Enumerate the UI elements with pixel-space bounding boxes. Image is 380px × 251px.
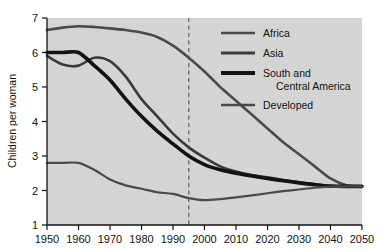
y-axis-title: Children per woman [6,74,18,168]
chart-root: 1234567 19501960197019801990200020102020… [0,0,380,251]
legend-label-south-and: South and [263,67,311,79]
legend-label-central-america: Central America [276,80,351,92]
y-tick-label-7: 7 [32,12,38,24]
x-tick-label-2050: 2050 [350,233,374,245]
legend-label-developed: Developed [263,99,313,111]
y-tick-labels-group: 1234567 [32,12,38,231]
fertility-line-chart: 1234567 19501960197019801990200020102020… [0,0,380,251]
legend-label-africa: Africa [263,27,290,39]
x-tick-label-2010: 2010 [224,233,248,245]
x-tick-label-2020: 2020 [255,233,279,245]
y-tick-label-2: 2 [32,185,38,197]
x-tick-label-2040: 2040 [318,233,342,245]
y-tick-label-1: 1 [32,219,38,231]
y-tick-label-5: 5 [32,81,38,93]
x-tick-label-1960: 1960 [66,233,90,245]
x-tick-labels-group: 1950196019701980199020002010202020302040… [35,233,374,245]
y-tick-label-6: 6 [32,47,38,59]
y-tick-label-3: 3 [32,150,38,162]
x-tick-label-1950: 1950 [35,233,59,245]
x-tick-label-1980: 1980 [129,233,153,245]
plot-background-group [47,18,362,225]
x-tick-label-2000: 2000 [192,233,216,245]
plot-background [47,18,362,225]
x-tick-label-2030: 2030 [287,233,311,245]
x-tick-label-1990: 1990 [161,233,185,245]
legend-label-asia: Asia [263,47,284,59]
y-tick-label-4: 4 [32,116,38,128]
x-tick-label-1970: 1970 [98,233,122,245]
